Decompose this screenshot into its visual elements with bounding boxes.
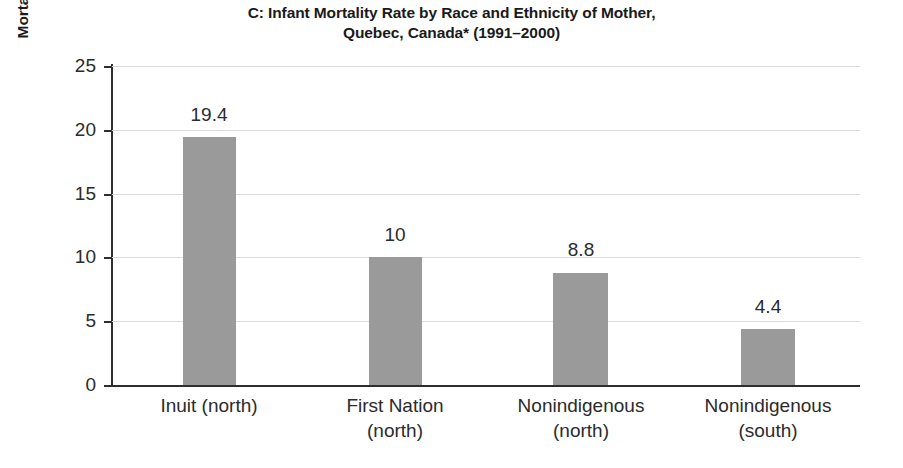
y-tick-label-5: 5 [56,310,96,332]
y-axis-title: Mortality Rate per 1,000 Live Births [14,0,38,79]
bar-first-nation-north[interactable] [369,257,422,385]
x-category-line: (north) [346,418,443,443]
gridline-25 [112,66,860,67]
bar-value-nonindigenous-south: 4.4 [755,296,781,318]
x-category-label-nonindigenous-north: Nonindigenous (north) [518,393,645,443]
bar-value-inuit-north: 19.4 [191,104,228,126]
y-tick-label-10: 10 [56,246,96,268]
x-category-line: (north) [518,418,645,443]
y-tick-label-15: 15 [56,183,96,205]
x-category-line: First Nation [346,393,443,418]
x-category-label-inuit-north: Inuit (north) [160,393,257,418]
x-category-label-nonindigenous-south: Nonindigenous (south) [705,393,832,443]
y-axis-ticks: 25 20 15 10 5 0 [48,0,96,468]
y-tick-label-0: 0 [56,374,96,396]
bar-inuit-north[interactable] [183,137,236,385]
gridline-20 [112,130,860,131]
bar-value-nonindigenous-north: 8.8 [568,239,594,261]
y-tick-mark-0 [104,385,113,387]
x-category-line: Inuit (north) [160,393,257,418]
x-category-line: Nonindigenous [518,393,645,418]
x-axis-line [104,385,860,387]
x-category-label-first-nation-north: First Nation (north) [346,393,443,443]
chart-title-line-1: C: Infant Mortality Rate by Race and Eth… [0,3,903,23]
x-category-line: Nonindigenous [705,393,832,418]
y-tick-label-25: 25 [56,55,96,77]
y-tick-label-20: 20 [56,119,96,141]
bar-nonindigenous-south[interactable] [741,329,795,385]
bar-value-first-nation-north: 10 [384,224,405,246]
chart-title-line-2: Quebec, Canada* (1991–2000) [0,23,903,43]
x-category-line: (south) [705,418,832,443]
bar-nonindigenous-north[interactable] [553,273,608,385]
chart-title: C: Infant Mortality Rate by Race and Eth… [0,3,903,43]
